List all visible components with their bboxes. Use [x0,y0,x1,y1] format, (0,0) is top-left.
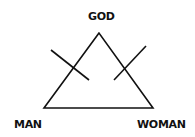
triangle [44,33,153,108]
label-man: MAN [14,119,42,130]
label-god: GOD [88,11,115,22]
label-woman: WOMAN [137,119,186,130]
